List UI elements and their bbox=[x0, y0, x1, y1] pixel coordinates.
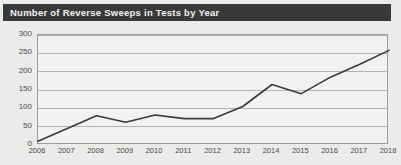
series-line bbox=[38, 35, 389, 145]
x-axis-tick-label: 2010 bbox=[140, 147, 168, 155]
y-axis-tick-label: 50 bbox=[0, 122, 32, 130]
x-axis-tick-label: 2018 bbox=[374, 147, 401, 155]
series-polyline bbox=[38, 50, 389, 141]
x-axis-tick-label: 2006 bbox=[23, 147, 51, 155]
x-axis-tick-label: 2016 bbox=[316, 147, 344, 155]
x-axis-tick-label: 2008 bbox=[82, 147, 110, 155]
y-axis-tick-label: 150 bbox=[0, 85, 32, 93]
x-axis-tick-label: 2007 bbox=[52, 147, 80, 155]
chart-figure: Number of Reverse Sweeps in Tests by Yea… bbox=[0, 0, 401, 165]
x-axis-tick-label: 2011 bbox=[169, 147, 197, 155]
x-axis-tick-label: 2015 bbox=[286, 147, 314, 155]
y-axis-tick-label: 300 bbox=[0, 30, 32, 38]
x-axis-tick-label: 2009 bbox=[111, 147, 139, 155]
x-axis-tick-label: 2014 bbox=[257, 147, 285, 155]
y-axis-tick-label: 200 bbox=[0, 67, 32, 75]
x-axis-tick-label: 2013 bbox=[228, 147, 256, 155]
x-axis: 2006200720082009201020112012201320142015… bbox=[37, 147, 388, 159]
y-axis-tick-label: 250 bbox=[0, 48, 32, 56]
x-axis-tick-label: 2017 bbox=[345, 147, 373, 155]
plot-area bbox=[37, 34, 388, 144]
y-axis: 050100150200250300 bbox=[0, 0, 37, 165]
chart-title-bar: Number of Reverse Sweeps in Tests by Yea… bbox=[3, 4, 391, 21]
y-axis-tick-label: 100 bbox=[0, 103, 32, 111]
x-axis-tick-label: 2012 bbox=[199, 147, 227, 155]
